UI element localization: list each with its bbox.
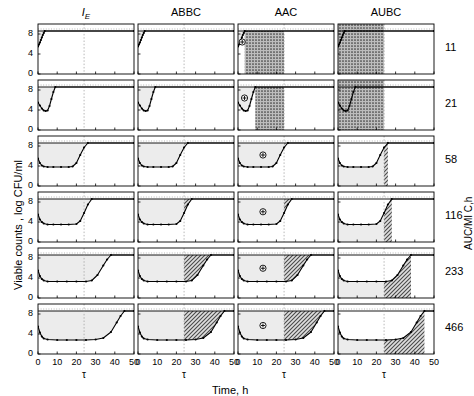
panel-IE-11 bbox=[37, 24, 135, 74]
x-tick-label: 50 bbox=[424, 357, 444, 367]
data-point bbox=[243, 222, 245, 224]
data-point bbox=[52, 91, 54, 93]
data-point bbox=[41, 278, 43, 280]
data-point bbox=[56, 280, 58, 282]
y-tick-label: 4 bbox=[21, 328, 33, 338]
data-point bbox=[66, 339, 68, 341]
data-point bbox=[39, 162, 41, 164]
data-point bbox=[106, 258, 108, 260]
data-point bbox=[110, 254, 112, 256]
data-point bbox=[39, 104, 41, 106]
data-point bbox=[347, 223, 349, 225]
viable-count-curve bbox=[38, 31, 134, 47]
data-point bbox=[183, 212, 185, 214]
data-point bbox=[402, 337, 404, 339]
tau-axis-label: τ bbox=[178, 369, 190, 380]
data-point bbox=[383, 212, 385, 214]
data-point bbox=[387, 142, 389, 144]
data-point bbox=[306, 258, 308, 260]
tau-axis-label: τ bbox=[278, 369, 290, 380]
data-point bbox=[275, 162, 277, 164]
data-point bbox=[342, 34, 344, 36]
data-point bbox=[150, 98, 152, 100]
data-point bbox=[42, 34, 44, 36]
x-tick-label: 10 bbox=[47, 357, 67, 367]
x-tick-label: 40 bbox=[205, 357, 225, 367]
data-point bbox=[352, 223, 354, 225]
row-label-21: 21 bbox=[445, 97, 457, 109]
data-point bbox=[316, 321, 318, 323]
data-point bbox=[375, 223, 377, 225]
data-point bbox=[145, 110, 147, 112]
data-point bbox=[191, 198, 193, 200]
data-point bbox=[343, 279, 345, 281]
data-point bbox=[139, 275, 141, 277]
data-point bbox=[241, 278, 243, 280]
data-point bbox=[339, 218, 341, 220]
data-point bbox=[95, 338, 97, 340]
shaded-region-ie bbox=[38, 311, 124, 340]
data-point bbox=[344, 30, 346, 32]
data-point bbox=[283, 146, 285, 148]
data-point bbox=[187, 142, 189, 144]
data-point bbox=[275, 280, 277, 282]
data-point bbox=[360, 166, 362, 168]
tau-axis-label: τ bbox=[78, 369, 90, 380]
y-tick-label: 8 bbox=[21, 308, 33, 318]
data-point bbox=[141, 221, 143, 223]
data-point bbox=[366, 280, 368, 282]
data-point bbox=[39, 218, 41, 220]
data-point bbox=[71, 165, 73, 167]
x-tick-label: 0 bbox=[228, 357, 248, 367]
data-point bbox=[375, 162, 377, 164]
data-point bbox=[206, 258, 208, 260]
panel-ABBC-11 bbox=[137, 24, 235, 74]
data-point bbox=[47, 109, 49, 111]
data-point bbox=[283, 212, 285, 214]
data-point bbox=[241, 164, 243, 166]
row-label-233: 233 bbox=[445, 265, 463, 277]
data-point bbox=[102, 337, 104, 339]
y-tick-label: 8 bbox=[21, 140, 33, 150]
data-point bbox=[350, 98, 352, 100]
column-title-AUBC: AUBC bbox=[338, 6, 434, 18]
shaded-region-abbc-pre-tau bbox=[138, 199, 184, 225]
data-point bbox=[247, 166, 249, 168]
data-point bbox=[152, 166, 154, 168]
data-point bbox=[268, 166, 270, 168]
data-point bbox=[339, 104, 341, 106]
data-point bbox=[347, 109, 349, 111]
data-point bbox=[391, 279, 393, 281]
data-point bbox=[142, 34, 144, 36]
row-label-58: 58 bbox=[445, 153, 457, 165]
data-point bbox=[406, 258, 408, 260]
data-point bbox=[210, 331, 212, 333]
data-point bbox=[275, 223, 277, 225]
data-point bbox=[319, 315, 321, 317]
data-point bbox=[43, 109, 45, 111]
panel-AAC-21 bbox=[237, 80, 335, 130]
data-point bbox=[260, 166, 262, 168]
data-point bbox=[379, 220, 381, 222]
data-point bbox=[416, 321, 418, 323]
shaded-region-aubc-post-tau bbox=[384, 255, 411, 298]
panel-AAC-11 bbox=[237, 24, 335, 74]
data-point bbox=[39, 41, 41, 43]
data-point bbox=[310, 331, 312, 333]
data-point bbox=[48, 105, 50, 107]
data-point bbox=[223, 310, 225, 312]
shaded-region-abbc-pre-tau bbox=[138, 311, 184, 340]
data-point bbox=[239, 331, 241, 333]
data-point bbox=[143, 222, 145, 224]
data-point bbox=[50, 98, 52, 100]
data-point bbox=[41, 107, 43, 109]
data-point bbox=[143, 337, 145, 339]
data-point bbox=[395, 338, 397, 340]
data-point bbox=[87, 203, 89, 205]
data-point bbox=[343, 109, 345, 111]
y-tick-label: 8 bbox=[21, 84, 33, 94]
data-point bbox=[247, 280, 249, 282]
data-point bbox=[339, 331, 341, 333]
data-point bbox=[148, 105, 150, 107]
data-point bbox=[75, 339, 77, 341]
